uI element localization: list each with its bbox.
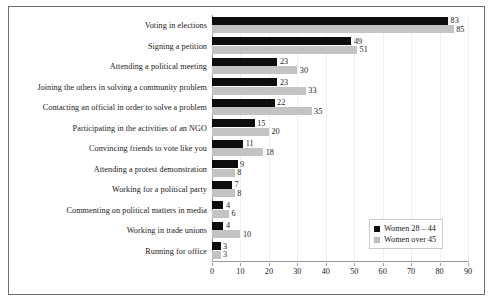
bar[interactable] <box>212 181 232 189</box>
bar-value-label: 23 <box>280 58 288 66</box>
bar-group: 2330 <box>212 56 486 77</box>
category-label: Signing a petition <box>148 41 207 50</box>
bar[interactable] <box>212 128 269 136</box>
bar[interactable] <box>212 169 235 177</box>
bar-value-label: 3 <box>223 251 227 259</box>
bar[interactable] <box>212 140 243 148</box>
bar[interactable] <box>212 251 221 259</box>
x-tick-label: 50 <box>350 267 358 276</box>
bar-group: 410 <box>212 220 486 241</box>
x-tick-mark <box>297 263 298 266</box>
bar[interactable] <box>212 58 277 66</box>
bar[interactable] <box>212 189 235 197</box>
bar-row: Working for a political party78 <box>9 179 486 200</box>
bar[interactable] <box>212 66 297 74</box>
x-tick-label: 20 <box>265 267 273 276</box>
x-tick-mark <box>411 263 412 266</box>
bar[interactable] <box>212 107 312 115</box>
category-label: Commenting on political matters in media <box>67 205 207 214</box>
bar-group: 33 <box>212 241 486 262</box>
category-label: Working in trade unions <box>127 226 207 235</box>
bar[interactable] <box>212 119 255 127</box>
x-tick-mark <box>269 263 270 266</box>
bar-group: 98 <box>212 159 486 180</box>
category-label: Attending a protest demonstration <box>94 164 207 173</box>
x-tick-label: 10 <box>236 267 244 276</box>
bar[interactable] <box>212 17 448 25</box>
legend-label: Women over 45 <box>384 235 436 244</box>
bar-row: Participating in the activities of an NG… <box>9 118 486 139</box>
bar[interactable] <box>212 78 277 86</box>
x-tick-mark <box>240 263 241 266</box>
bar-value-label: 7 <box>234 181 238 189</box>
bar-group: 1118 <box>212 138 486 159</box>
bar[interactable] <box>212 148 263 156</box>
bar-value-label: 8 <box>237 169 241 177</box>
x-tick-mark <box>440 263 441 266</box>
bar-value-label: 15 <box>257 120 265 128</box>
bar-value-label: 11 <box>246 140 254 148</box>
chart-legend: Women 28 – 44Women over 45 <box>369 219 443 249</box>
bar[interactable] <box>212 46 357 54</box>
category-label: Contacting an official in order to solve… <box>43 103 207 112</box>
x-tick-label: 80 <box>435 267 443 276</box>
bar-row: Attending a political meeting2330 <box>9 56 486 77</box>
category-label: Working for a political party <box>112 185 207 194</box>
x-tick-label: 60 <box>379 267 387 276</box>
x-tick-label: 40 <box>322 267 330 276</box>
bar-value-label: 6 <box>232 210 236 218</box>
bar-value-label: 10 <box>243 231 251 239</box>
bar-group: 2333 <box>212 77 486 98</box>
category-label: Convincing friends to vote like you <box>89 144 207 153</box>
bar-row: Commenting on political matters in media… <box>9 200 486 221</box>
chart-frame: Voting in elections8385Signing a petitio… <box>8 6 485 295</box>
bar[interactable] <box>212 222 223 230</box>
bar-value-label: 20 <box>271 128 279 136</box>
bar-group: 8385 <box>212 15 486 36</box>
x-axis: 0102030405060708090 <box>212 263 469 279</box>
x-tick-mark <box>326 263 327 266</box>
bar-row: Convincing friends to vote like you1118 <box>9 138 486 159</box>
bar-value-label: 30 <box>300 67 308 75</box>
x-tick-label: 0 <box>210 267 214 276</box>
bar-value-label: 8 <box>237 190 241 198</box>
bar[interactable] <box>212 201 223 209</box>
x-tick-mark <box>354 263 355 266</box>
bar-value-label: 85 <box>456 26 464 34</box>
bar-value-label: 83 <box>451 17 459 25</box>
bar[interactable] <box>212 87 306 95</box>
bar-row: Contacting an official in order to solve… <box>9 97 486 118</box>
bar[interactable] <box>212 210 229 218</box>
legend-item[interactable]: Women 28 – 44 <box>374 223 436 234</box>
x-tick-mark <box>468 263 469 266</box>
bar-value-label: 51 <box>360 46 368 54</box>
bar-group: 2235 <box>212 97 486 118</box>
x-tick-mark <box>383 263 384 266</box>
x-axis-line <box>212 261 469 262</box>
bar-group: 78 <box>212 179 486 200</box>
bar-value-label: 4 <box>226 202 230 210</box>
legend-item[interactable]: Women over 45 <box>374 234 436 245</box>
x-tick-label: 90 <box>464 267 472 276</box>
bar[interactable] <box>212 160 238 168</box>
bar[interactable] <box>212 25 454 33</box>
bar[interactable] <box>212 230 240 238</box>
bar-group: 46 <box>212 200 486 221</box>
category-label: Joining the others in solving a communit… <box>37 82 207 91</box>
bar[interactable] <box>212 242 221 250</box>
x-tick-label: 70 <box>407 267 415 276</box>
x-tick-label: 30 <box>293 267 301 276</box>
bar-row: Signing a petition4951 <box>9 36 486 57</box>
bar[interactable] <box>212 37 351 45</box>
category-label: Participating in the activities of an NG… <box>73 123 207 132</box>
bar-value-label: 33 <box>308 87 316 95</box>
category-label: Running for office <box>145 246 207 255</box>
bar[interactable] <box>212 99 275 107</box>
x-tick-mark <box>212 263 213 266</box>
bar-value-label: 35 <box>314 108 322 116</box>
bar-row: Joining the others in solving a communit… <box>9 77 486 98</box>
category-label: Attending a political meeting <box>110 62 207 71</box>
legend-label: Women 28 – 44 <box>384 224 436 233</box>
bar-value-label: 4 <box>226 222 230 230</box>
bar-row: Voting in elections8385 <box>9 15 486 36</box>
